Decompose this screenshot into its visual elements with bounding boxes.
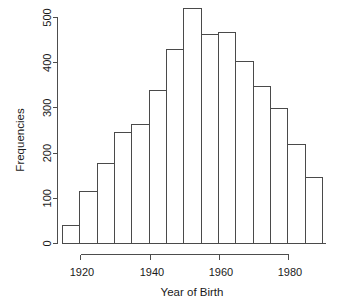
bar-1935	[132, 125, 149, 244]
y-tick-label-500: 500	[41, 8, 53, 26]
bar-1915	[63, 225, 80, 243]
bar-1945	[167, 50, 184, 244]
bar-1985	[305, 178, 322, 244]
y-tick-label-0: 0	[41, 240, 53, 246]
bar-1950	[184, 9, 201, 244]
y-axis-line	[53, 18, 58, 244]
bar-1975	[271, 109, 288, 244]
x-tick-label-1980: 1980	[278, 266, 302, 278]
bar-1965	[236, 61, 253, 243]
x-tick-label-1920: 1920	[70, 266, 94, 278]
x-tick-label-1960: 1960	[209, 266, 233, 278]
bar-1980	[288, 145, 305, 244]
x-axis-title: Year of Birth	[161, 286, 224, 298]
bar-1920	[80, 192, 97, 244]
bar-1930	[115, 132, 132, 243]
x-axis-line	[81, 255, 289, 260]
bar-1970	[253, 86, 270, 243]
y-tick-label-200: 200	[41, 144, 53, 162]
bar-1940	[149, 90, 166, 243]
histogram-chart: 500 400 300 200 100 0 Frequencies 1920 1…	[0, 0, 338, 303]
y-tick-label-100: 100	[41, 189, 53, 207]
plot-area: 500 400 300 200 100 0 Frequencies 1920 1…	[0, 0, 338, 303]
x-tick-label-1940: 1940	[140, 266, 164, 278]
bar-1925	[97, 163, 114, 243]
y-tick-label-300: 300	[41, 99, 53, 117]
y-axis-title: Frequencies	[14, 108, 26, 172]
bar-1960	[219, 32, 236, 243]
y-tick-label-400: 400	[41, 54, 53, 72]
bar-1955	[201, 35, 218, 244]
